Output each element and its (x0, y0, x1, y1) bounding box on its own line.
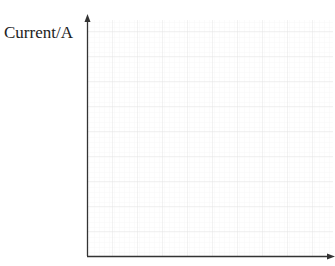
graph-area (0, 0, 335, 266)
grid (87, 20, 333, 256)
y-axis-arrow-icon (85, 14, 91, 22)
